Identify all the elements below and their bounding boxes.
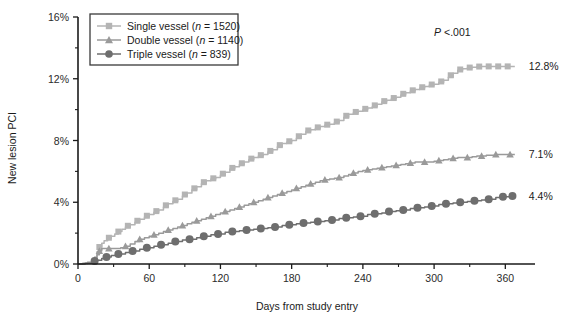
data-marker [505,63,511,69]
data-marker [413,204,421,212]
data-marker [258,152,264,158]
data-marker [328,216,336,224]
data-marker [172,197,178,203]
series-single-vessel [78,63,515,264]
y-tick-label: 8% [54,135,69,147]
data-marker [508,192,516,200]
data-marker [334,119,340,125]
data-marker [456,198,464,206]
data-marker [106,23,112,29]
data-marker [105,50,113,58]
series-layer [78,63,516,265]
data-marker [153,208,159,214]
x-tick-label: 300 [425,272,443,284]
data-marker [243,226,251,234]
data-marker [229,165,235,171]
data-marker [239,160,245,166]
data-marker [134,218,140,224]
data-marker [186,235,194,243]
data-marker [470,197,478,205]
data-marker [342,214,350,222]
data-marker [381,98,387,104]
data-marker [214,230,222,238]
data-marker [125,223,131,229]
data-marker [428,202,436,210]
data-marker [248,156,254,162]
data-marker [305,127,311,133]
data-marker [144,213,150,219]
x-tick-label: 180 [283,272,301,284]
end-label-double: 7.1% [529,148,553,160]
data-marker [385,208,393,216]
data-marker [362,106,368,112]
data-marker [353,109,359,115]
data-marker [467,65,473,71]
data-marker [220,171,226,177]
data-marker [228,228,236,236]
y-tick-label: 4% [54,196,69,208]
data-marker [271,223,279,231]
p-value: P <.001 [434,26,471,38]
new-lesion-pci-chart: 0601201802403003600%4%8%12%16% P <.00112… [0,0,567,320]
data-marker [438,78,444,84]
y-axis-title: New lesion PCI [6,112,18,184]
data-marker [182,192,188,198]
x-tick-label: 120 [212,272,230,284]
chart-figure: 0601201802403003600%4%8%12%16% P <.00112… [0,0,567,320]
x-tick-label: 360 [497,272,515,284]
data-marker [371,210,379,218]
data-marker [372,102,378,108]
data-marker [442,200,450,208]
data-marker [314,218,322,226]
x-tick-label: 60 [143,272,155,284]
data-marker [286,138,292,144]
annotation-layer: P <.00112.8%7.1%4.4% [434,26,558,202]
data-marker [163,202,169,208]
series-line [78,196,515,264]
data-marker [102,253,110,261]
data-marker [143,244,151,252]
y-tick-label: 12% [48,73,69,85]
data-marker [257,224,265,232]
data-marker [499,193,507,201]
data-marker [106,235,112,241]
x-tick-label: 0 [75,272,81,284]
data-marker [267,148,273,154]
data-marker [171,238,179,246]
data-marker [457,66,463,72]
data-marker [300,219,308,227]
x-axis-title: Days from study entry [256,300,359,312]
data-marker [129,247,137,255]
series-line [78,66,515,264]
data-marker [324,122,330,128]
data-marker [157,241,165,249]
legend-label: Single vessel (n = 1520) [127,20,240,32]
data-marker [343,113,349,119]
data-marker [200,232,208,240]
legend-label: Double vessel (n = 1140) [127,34,243,46]
data-marker [285,221,293,229]
data-marker [277,142,283,148]
data-marker [201,179,207,185]
data-marker [448,72,454,78]
data-marker [410,87,416,93]
data-marker [357,212,365,220]
data-marker [391,95,397,101]
series-triple-vessel [78,192,516,265]
data-marker [315,124,321,130]
data-marker [485,195,493,203]
legend-label: Triple vessel (n = 839) [127,48,231,60]
data-marker [115,229,121,235]
x-tick-label: 240 [354,272,372,284]
y-tick-label: 0% [54,258,69,270]
data-marker [495,63,501,69]
end-label-single: 12.8% [529,60,559,72]
data-marker [476,64,482,70]
end-label-triple: 4.4% [529,190,553,202]
data-marker [296,133,302,139]
y-tick-label: 16% [48,11,69,23]
data-marker [486,63,492,69]
data-marker [429,82,435,88]
data-marker [114,250,122,258]
data-marker [419,84,425,90]
